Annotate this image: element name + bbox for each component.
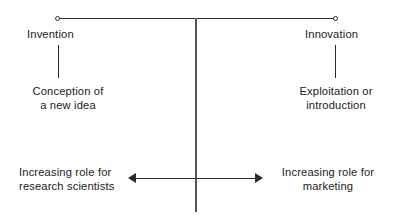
open-circle-icon-left: [55, 16, 60, 21]
vertical-center-axis-line: [195, 18, 197, 212]
pole-description-innovation: Exploitation or introduction: [288, 85, 384, 112]
open-circle-icon-right: [333, 16, 338, 21]
role-label-marketing: Increasing role for marketing: [272, 166, 384, 193]
pole-description-invention: Conception of a new idea: [20, 85, 116, 112]
role-label-research-scientists: Increasing role for research scientists: [19, 166, 129, 193]
connector-tick-right: [335, 45, 336, 78]
invention-innovation-diagram: Invention Innovation Conception of a new…: [0, 0, 398, 222]
arrow-shaft-left: [133, 178, 195, 179]
pole-heading-innovation: Innovation: [305, 28, 358, 42]
arrow-right-icon: [255, 173, 263, 183]
pole-heading-invention: Invention: [27, 28, 74, 42]
arrow-left-icon: [128, 173, 136, 183]
connector-tick-left: [58, 45, 59, 78]
arrow-shaft-right: [196, 178, 259, 179]
